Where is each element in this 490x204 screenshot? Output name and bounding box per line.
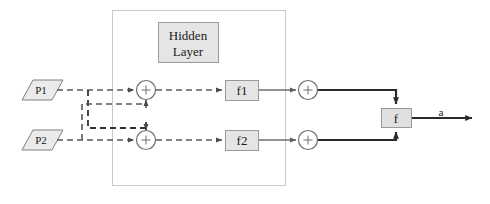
diagram-canvas: P1 P2 f1 f2 f a Hidden Layer (0, 0, 490, 204)
sum-node-output-2 (299, 131, 318, 150)
activation-label-f1: f1 (237, 83, 248, 98)
edge-osum2-to-f (318, 132, 396, 140)
edge-osum1-to-f (318, 90, 396, 104)
activation-label-f2: f2 (237, 133, 248, 148)
input-label-p2: P2 (35, 134, 47, 146)
edge-p1-to-sum2-cross (88, 90, 146, 128)
edge-p2-to-sum1-cross (82, 104, 146, 140)
hidden-layer-label-line1: Hidden (169, 28, 208, 43)
hidden-layer-label-line2: Layer (173, 44, 204, 59)
input-label-p1: P1 (35, 84, 47, 96)
sum-node-output-1 (299, 81, 318, 100)
sum-node-hidden-2 (137, 131, 156, 150)
sum-node-hidden-1 (137, 81, 156, 100)
output-box-label-f: f (394, 111, 399, 126)
output-signal-label-a: a (439, 106, 444, 118)
neural-network-diagram: P1 P2 f1 f2 f a Hidden Layer (0, 0, 490, 204)
